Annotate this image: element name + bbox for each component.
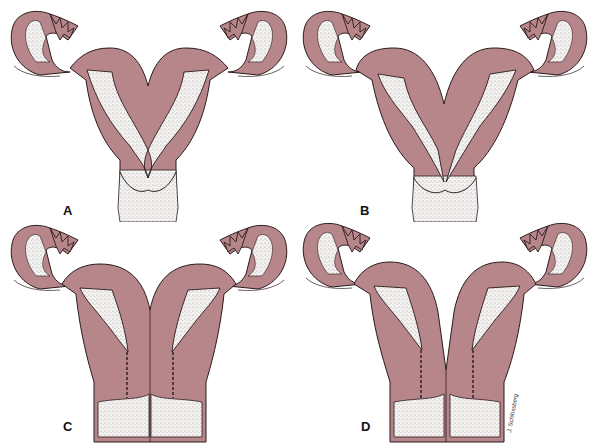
panel-label-c: C bbox=[63, 419, 72, 434]
panel-label-a: A bbox=[63, 203, 72, 218]
uterus-illustration-d bbox=[298, 222, 596, 445]
panel-c: C bbox=[0, 222, 298, 444]
panel-a: A bbox=[0, 0, 298, 222]
panel-label-b: B bbox=[360, 203, 369, 218]
uterus-illustration-a bbox=[0, 0, 298, 222]
panel-b: B bbox=[298, 0, 596, 222]
uterus-illustration-c bbox=[0, 222, 298, 445]
panel-label-d: D bbox=[361, 419, 370, 434]
panel-d: D J. Schlossberg bbox=[298, 222, 596, 444]
uterus-illustration-b bbox=[298, 0, 596, 222]
